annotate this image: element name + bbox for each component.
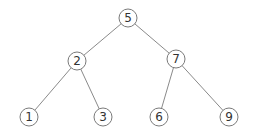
node-label: 2 [73,54,81,68]
node-5: 5 [119,9,137,27]
edge-5-2 [77,18,128,61]
node-label: 3 [99,110,107,124]
node-6: 6 [150,108,168,126]
edges [29,18,229,117]
node-2: 2 [68,52,86,70]
node-7: 7 [167,50,185,68]
node-label: 9 [225,110,233,124]
node-label: 6 [155,110,163,124]
node-label: 1 [25,110,33,124]
node-1: 1 [20,108,38,126]
node-label: 5 [124,11,132,25]
node-3: 3 [94,108,112,126]
node-9: 9 [220,108,238,126]
edge-7-9 [176,59,229,117]
tree-diagram: 5 2 7 1 3 6 9 [0,0,253,137]
edge-2-1 [29,61,77,117]
node-label: 7 [172,52,180,66]
